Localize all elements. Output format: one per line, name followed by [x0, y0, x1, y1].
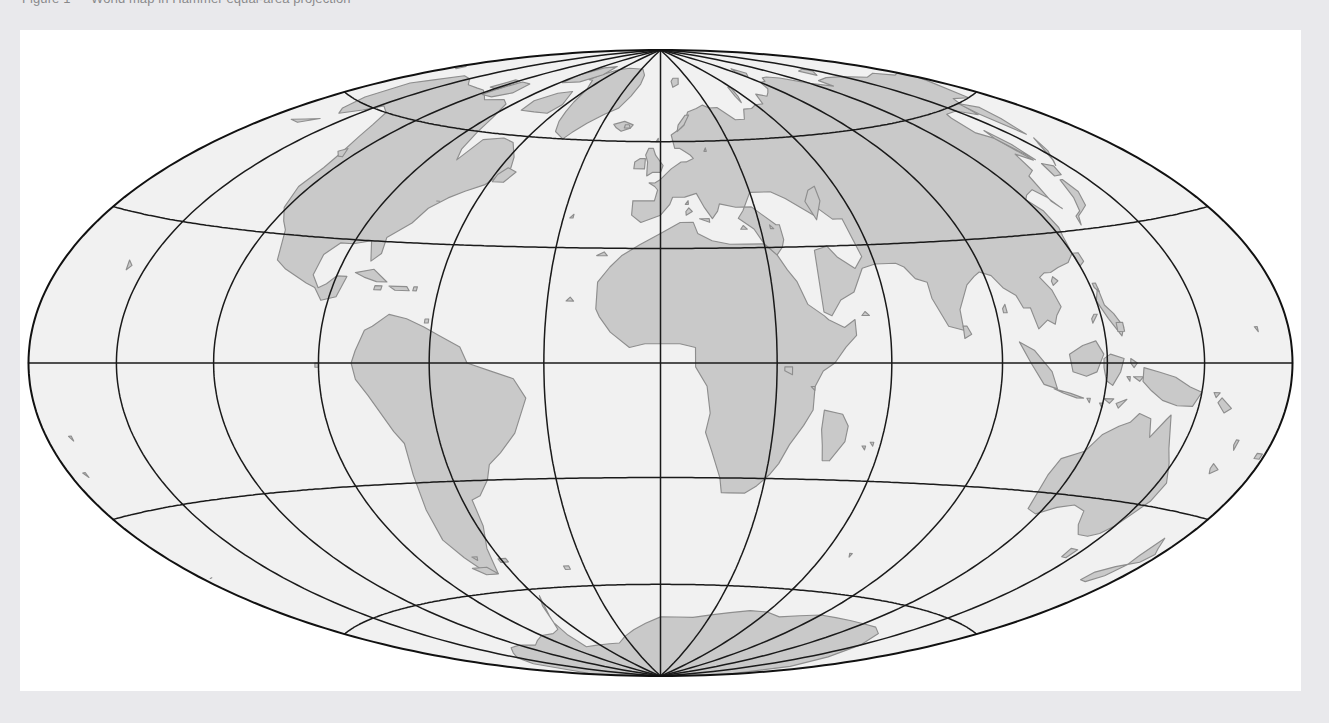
page-root: Figure 1 — World map in Hammer equal-are… [0, 0, 1329, 723]
world-map-figure [20, 30, 1301, 691]
coastline-chathamis [210, 578, 212, 579]
world-map-svg[interactable] [20, 30, 1301, 691]
document-canvas [20, 30, 1301, 691]
clipped-header-text: Figure 1 — World map in Hammer equal-are… [22, 0, 351, 6]
